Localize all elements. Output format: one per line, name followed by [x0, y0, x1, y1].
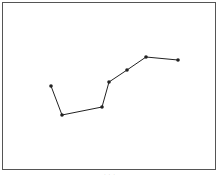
chart-caption: · · · — [0, 172, 220, 177]
series-line — [51, 57, 178, 115]
data-point-marker — [100, 105, 104, 109]
data-point-marker — [60, 113, 64, 117]
data-point-marker — [144, 55, 148, 59]
data-point-marker — [107, 80, 111, 84]
data-point-marker — [176, 58, 180, 62]
data-markers — [49, 55, 180, 117]
line-plot — [0, 0, 220, 177]
data-point-marker — [125, 68, 129, 72]
data-point-marker — [49, 84, 53, 88]
